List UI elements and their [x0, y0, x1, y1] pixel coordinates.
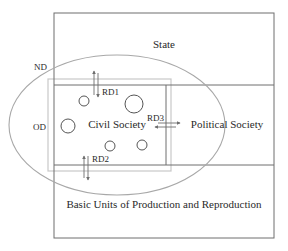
association-circle — [125, 95, 143, 113]
association-circle — [61, 119, 75, 133]
association-circle — [105, 141, 115, 151]
rd2-label: RD2 — [92, 154, 109, 164]
civil-society-label: Civil Society — [88, 118, 146, 130]
political-society-label: Political Society — [191, 118, 264, 130]
od-label: OD — [33, 122, 46, 132]
state-label: State — [153, 38, 175, 50]
basic-units-label: Basic Units of Production and Reproducti… — [66, 198, 262, 210]
association-circle — [137, 140, 147, 150]
association-circle — [79, 96, 89, 106]
civil-society-diagram: State Political Society Civil Society Ba… — [0, 0, 288, 251]
nd-label: ND — [34, 62, 47, 72]
rd3-label: RD3 — [147, 113, 165, 123]
rd1-label: RD1 — [102, 87, 119, 97]
